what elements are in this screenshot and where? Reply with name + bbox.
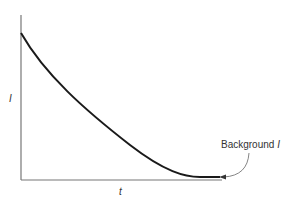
chart: I t Background I bbox=[0, 0, 293, 202]
annotation-label: Background I bbox=[221, 139, 280, 150]
decay-curve bbox=[21, 33, 220, 177]
x-axis-label: t bbox=[119, 186, 123, 197]
arrow-head-icon bbox=[219, 175, 226, 180]
annotation-leader-line bbox=[224, 153, 249, 177]
y-axis-label: I bbox=[9, 93, 12, 104]
